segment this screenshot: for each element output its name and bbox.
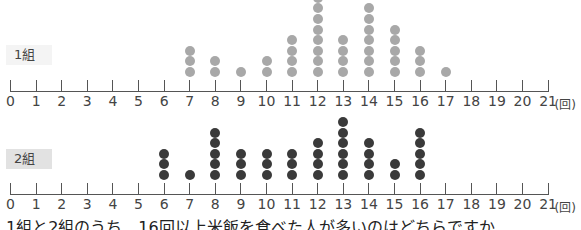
data-dot bbox=[415, 128, 425, 138]
data-dot bbox=[364, 138, 374, 148]
x-axis-tick bbox=[112, 183, 113, 194]
x-axis-tick bbox=[420, 183, 421, 194]
data-dot bbox=[338, 128, 348, 138]
x-axis-tick bbox=[292, 183, 293, 194]
x-axis-tick bbox=[368, 183, 369, 194]
data-dot bbox=[313, 170, 323, 180]
class2-dot-plot: 2組 0123456789101112131415161718192021(回) bbox=[0, 0, 581, 230]
data-dot bbox=[159, 170, 169, 180]
x-axis-tick bbox=[240, 183, 241, 194]
x-axis-tick bbox=[317, 183, 318, 194]
data-dot bbox=[210, 170, 220, 180]
data-dot bbox=[338, 138, 348, 148]
question-text: 1組と2組のうち、16回以上米飯を食べた人が多いのはどちらですか bbox=[6, 214, 495, 230]
data-dot bbox=[159, 149, 169, 159]
x-tick-label: 5 bbox=[134, 196, 143, 212]
data-dot bbox=[210, 159, 220, 169]
x-axis-tick bbox=[343, 183, 344, 194]
data-dot bbox=[210, 138, 220, 148]
x-axis-tick bbox=[522, 183, 523, 194]
x-axis-tick bbox=[189, 183, 190, 194]
x-tick-label: 19 bbox=[488, 196, 506, 212]
data-dot bbox=[262, 149, 272, 159]
data-dot bbox=[262, 170, 272, 180]
data-dot bbox=[287, 149, 297, 159]
data-dot bbox=[390, 170, 400, 180]
x-axis-line bbox=[10, 194, 549, 195]
x-axis-tick bbox=[548, 183, 549, 194]
data-dot bbox=[415, 149, 425, 159]
x-tick-label: 14 bbox=[360, 196, 378, 212]
x-axis-tick bbox=[138, 183, 139, 194]
x-tick-label: 1 bbox=[32, 196, 41, 212]
x-tick-label: 16 bbox=[411, 196, 429, 212]
data-dot bbox=[210, 149, 220, 159]
x-axis-tick bbox=[266, 183, 267, 194]
x-axis-tick bbox=[36, 183, 37, 194]
x-tick-label: 12 bbox=[309, 196, 327, 212]
data-dot bbox=[415, 138, 425, 148]
x-tick-label: 9 bbox=[236, 196, 245, 212]
data-dot bbox=[415, 170, 425, 180]
x-axis-tick bbox=[496, 183, 497, 194]
data-dot bbox=[338, 117, 348, 127]
class2-label: 2組 bbox=[6, 149, 52, 169]
data-dot bbox=[313, 149, 323, 159]
data-dot bbox=[364, 170, 374, 180]
data-dot bbox=[338, 149, 348, 159]
data-dot bbox=[364, 149, 374, 159]
x-tick-label: 3 bbox=[83, 196, 92, 212]
x-axis-tick bbox=[445, 183, 446, 194]
x-tick-label: 0 bbox=[6, 196, 15, 212]
x-tick-label: 7 bbox=[185, 196, 194, 212]
x-tick-label: 11 bbox=[283, 196, 301, 212]
x-tick-label: 10 bbox=[258, 196, 276, 212]
data-dot bbox=[185, 170, 195, 180]
data-dot bbox=[364, 159, 374, 169]
x-tick-label: 13 bbox=[334, 196, 352, 212]
x-axis-tick bbox=[215, 183, 216, 194]
x-axis-tick bbox=[164, 183, 165, 194]
x-axis-tick bbox=[61, 183, 62, 194]
data-dot bbox=[287, 159, 297, 169]
data-dot bbox=[262, 159, 272, 169]
x-tick-label: 4 bbox=[108, 196, 117, 212]
x-axis-tick bbox=[10, 183, 11, 194]
x-tick-label: 15 bbox=[386, 196, 404, 212]
data-dot bbox=[338, 159, 348, 169]
data-dot bbox=[159, 159, 169, 169]
x-axis-unit: (回) bbox=[555, 198, 576, 215]
x-tick-label: 2 bbox=[57, 196, 66, 212]
data-dot bbox=[390, 159, 400, 169]
x-axis-tick bbox=[394, 183, 395, 194]
x-tick-label: 8 bbox=[211, 196, 220, 212]
x-tick-label: 6 bbox=[160, 196, 169, 212]
x-axis-tick bbox=[471, 183, 472, 194]
data-dot bbox=[210, 128, 220, 138]
data-dot bbox=[415, 159, 425, 169]
data-dot bbox=[236, 159, 246, 169]
data-dot bbox=[236, 170, 246, 180]
data-dot bbox=[313, 159, 323, 169]
data-dot bbox=[338, 170, 348, 180]
data-dot bbox=[313, 138, 323, 148]
x-tick-label: 18 bbox=[462, 196, 480, 212]
data-dot bbox=[236, 149, 246, 159]
x-tick-label: 17 bbox=[437, 196, 455, 212]
x-axis-tick bbox=[87, 183, 88, 194]
x-tick-label: 20 bbox=[514, 196, 532, 212]
data-dot bbox=[287, 170, 297, 180]
